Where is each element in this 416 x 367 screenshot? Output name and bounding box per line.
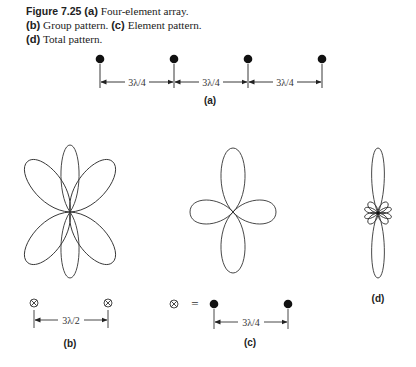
panel-label-c: (c) [244,337,256,348]
spacing-label-a3: 3λ/4 [276,77,294,88]
equals-sign: = [191,296,198,311]
lobe [59,152,123,221]
array-element-1 [96,55,105,64]
spacing-label-a1: 3λ/4 [128,77,146,88]
group-pattern-plot [17,145,124,278]
total-pattern-plot [364,148,392,278]
circled-x-icon [30,299,38,307]
element-dot [284,300,293,309]
lobe [221,212,245,273]
spacing-label-b: 3λ/2 [62,315,80,326]
spacing-label-a2: 3λ/4 [202,77,220,88]
panel-label-d: (d) [372,293,385,304]
array-element-4 [318,55,327,64]
element-dot [210,300,219,309]
figure-canvas: 3λ/4 3λ/4 3λ/4 (a) [0,0,416,367]
circled-x-icon [104,299,112,307]
element-pattern-plot [190,148,276,273]
lobe [17,203,81,272]
lobe [17,152,81,221]
panel-label-b: (b) [64,338,77,349]
panel-c-equation [170,300,292,329]
spacing-label-c: 3λ/4 [242,317,260,328]
circled-x-icon [170,300,178,308]
lobe [221,148,245,212]
array-element-3 [244,55,253,64]
lobe [59,203,123,272]
array-element-2 [170,55,179,64]
panel-label-a: (a) [204,95,216,106]
